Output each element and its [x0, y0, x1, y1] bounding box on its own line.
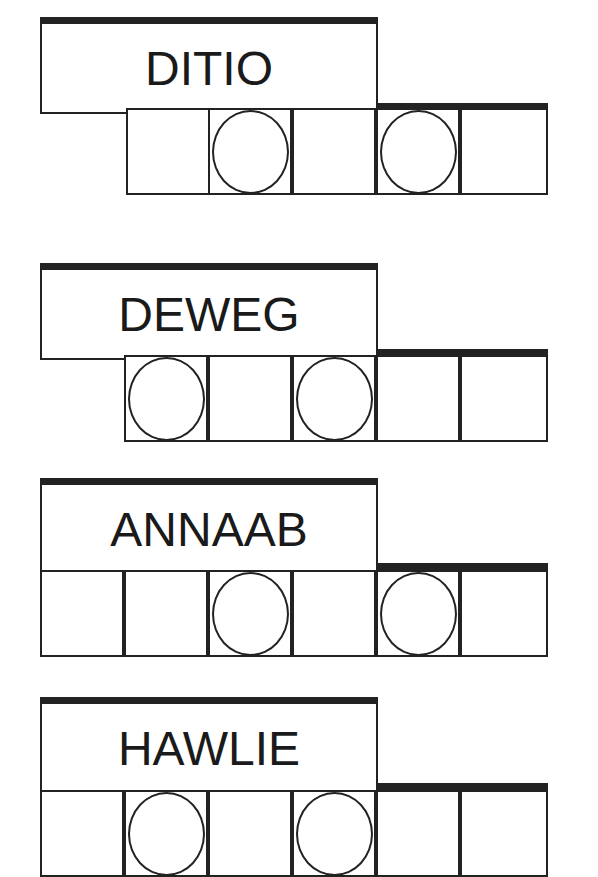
answer-cell-3[interactable] [292, 355, 376, 442]
scrambled-word: DITIO [145, 43, 273, 93]
answer-cell-3[interactable] [208, 570, 292, 657]
answer-cell-5[interactable] [460, 108, 548, 195]
answer-cell-2[interactable] [124, 570, 208, 657]
scrambled-word: HAWLIE [118, 723, 300, 773]
scrambled-word-box: HAWLIE [40, 697, 378, 794]
answer-cell-6[interactable] [460, 570, 548, 657]
answer-cell-6[interactable] [460, 790, 548, 877]
answer-cell-1[interactable] [40, 570, 124, 657]
circle-marker-icon [380, 110, 457, 194]
cell-row-top-bar [378, 783, 548, 790]
answer-cell-2[interactable] [124, 790, 208, 877]
answer-cell-1[interactable] [40, 790, 124, 877]
answer-cell-2[interactable] [208, 355, 292, 442]
scrambled-word-box: DEWEG [40, 263, 378, 360]
answer-cell-4[interactable] [292, 570, 376, 657]
answer-cell-4[interactable] [376, 355, 460, 442]
answer-cell-5[interactable] [376, 570, 460, 657]
answer-cell-5[interactable] [376, 790, 460, 877]
answer-cell-3[interactable] [292, 108, 376, 195]
circle-marker-icon [128, 792, 205, 876]
scrambled-word-box: DITIO [40, 17, 378, 114]
answer-cell-3[interactable] [208, 790, 292, 877]
circle-marker-icon [212, 572, 289, 656]
circle-marker-icon [296, 792, 373, 876]
answer-cell-4[interactable] [376, 108, 460, 195]
scrambled-word: ANNAAB [110, 504, 307, 554]
answer-cell-5[interactable] [460, 355, 548, 442]
circle-marker-icon [212, 110, 289, 194]
circle-marker-icon [380, 572, 457, 656]
answer-cell-4[interactable] [292, 790, 376, 877]
answer-cell-1[interactable] [126, 108, 210, 195]
scrambled-word-box: ANNAAB [40, 478, 378, 575]
scrambled-word: DEWEG [118, 289, 299, 339]
cell-row-top-bar [378, 563, 548, 570]
answer-cell-2[interactable] [208, 108, 292, 195]
circle-marker-icon [128, 357, 205, 441]
answer-cell-1[interactable] [124, 355, 208, 442]
circle-marker-icon [296, 357, 373, 441]
